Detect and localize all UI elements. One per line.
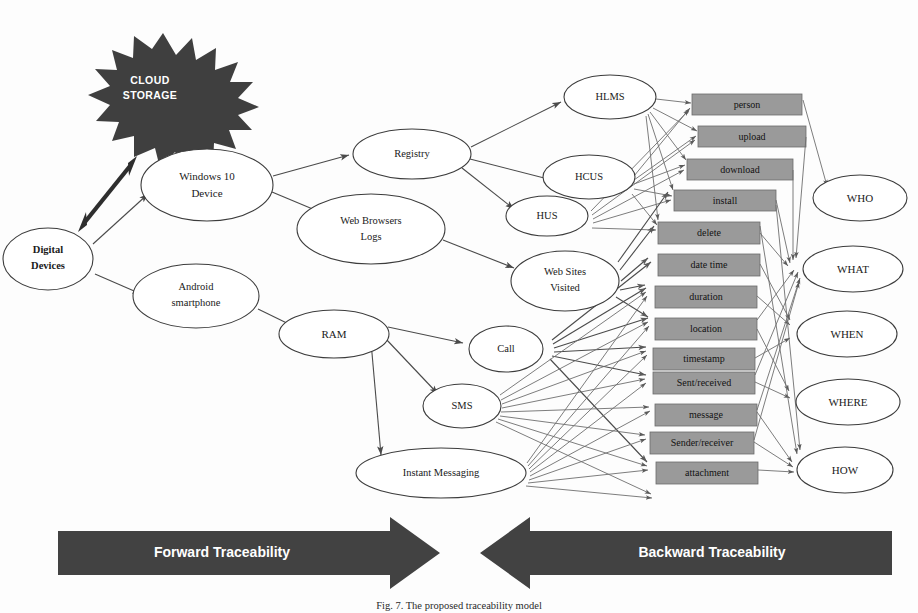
attribute-box-timestamp[interactable]: timestamp [653, 348, 755, 370]
attribute-label: upload [738, 131, 765, 142]
node-label-line1: Android [179, 281, 215, 292]
traceability-diagram: CLOUD STORAGE [0, 0, 918, 613]
node-label: HLMS [595, 91, 624, 102]
attribute-box-sent-received[interactable]: Sent/received [653, 372, 755, 394]
node-label: WHEN [831, 328, 864, 340]
node-label-line1: Windows 10 [179, 170, 235, 182]
attribute-box-download[interactable]: download [687, 159, 793, 180]
node-label-line2: Devices [31, 260, 65, 271]
forward-traceability-label: Forward Traceability [154, 544, 290, 560]
attribute-label: duration [689, 291, 722, 302]
node-label-line2: Logs [361, 231, 382, 242]
node-where[interactable]: WHERE [796, 379, 900, 425]
attribute-box-location[interactable]: location [655, 318, 757, 340]
node-label-line1: Web Browsers [340, 215, 401, 226]
attribute-box-duration[interactable]: duration [655, 286, 757, 308]
attribute-box-date-time[interactable]: date time [658, 254, 760, 276]
node-hlms[interactable]: HLMS [564, 75, 656, 119]
figure-canvas: CLOUD STORAGE [0, 0, 918, 613]
node-label-line2: Device [191, 187, 222, 199]
node-label: WHAT [837, 263, 869, 275]
node-label: HOW [832, 464, 859, 476]
node-web-sites-visited[interactable]: Web Sites Visited [511, 251, 619, 311]
node-hcus[interactable]: HCUS [543, 155, 635, 199]
attribute-box-upload[interactable]: upload [698, 126, 806, 147]
node-label-line1: Digital [33, 244, 63, 255]
node-instant-messaging[interactable]: Instant Messaging [356, 448, 526, 498]
attribute-box-delete[interactable]: delete [658, 222, 760, 244]
node-label: WHERE [828, 396, 867, 408]
attribute-label: location [690, 323, 722, 334]
attribute-label: Sent/received [677, 377, 731, 388]
node-label: SMS [451, 400, 472, 411]
forward-traceability-band: Forward Traceability [58, 517, 440, 589]
node-what[interactable]: WHAT [803, 246, 903, 292]
node-how[interactable]: HOW [797, 447, 893, 493]
node-when[interactable]: WHEN [797, 311, 897, 357]
node-android-smartphone[interactable]: Android smartphone [133, 264, 259, 328]
backward-traceability-band: Backward Traceability [480, 517, 892, 589]
node-hus[interactable]: HUS [506, 196, 588, 236]
attribute-label: person [734, 99, 761, 110]
node-label-line2: Visited [550, 282, 580, 293]
attribute-box-install[interactable]: install [674, 190, 776, 211]
attribute-label: date time [691, 259, 728, 270]
node-call[interactable]: Call [469, 326, 543, 372]
cloud-storage-star-shape [88, 33, 259, 172]
attribute-label: message [689, 409, 723, 420]
cloud-sync-double-arrow [78, 156, 137, 232]
node-ram[interactable]: RAM [279, 310, 389, 358]
node-web-browsers-logs[interactable]: Web Browsers Logs [297, 194, 445, 264]
node-label: HCUS [575, 171, 603, 182]
cloud-storage-label-line2: STORAGE [123, 89, 178, 101]
node-label: Call [497, 343, 515, 354]
node-windows-10-device[interactable]: Windows 10 Device [141, 149, 273, 221]
attribute-label: download [720, 164, 759, 175]
node-digital-devices[interactable]: Digital Devices [3, 228, 93, 290]
attribute-label: install [713, 195, 738, 206]
attribute-label: delete [697, 227, 721, 238]
node-label-line1: Web Sites [544, 266, 586, 277]
node-label: HUS [536, 210, 557, 221]
attribute-label: Sender/receiver [671, 437, 734, 448]
attribute-label: timestamp [683, 353, 725, 364]
node-registry[interactable]: Registry [353, 129, 471, 179]
attribute-label: attachment [685, 467, 729, 478]
node-label: WHO [847, 192, 873, 204]
attribute-box-attachment[interactable]: attachment [656, 462, 758, 484]
node-label: Instant Messaging [403, 467, 480, 478]
node-who[interactable]: WHO [813, 175, 907, 221]
attribute-box-message[interactable]: message [655, 404, 757, 426]
cloud-storage-label-line1: CLOUD [130, 74, 169, 86]
node-sms[interactable]: SMS [423, 384, 501, 428]
node-label: Registry [394, 148, 430, 159]
figure-caption: Fig. 7. The proposed traceability model [376, 600, 542, 611]
attribute-box-sender-receiver[interactable]: Sender/receiver [650, 432, 754, 454]
backward-traceability-label: Backward Traceability [638, 544, 785, 560]
cloud-storage-node: CLOUD STORAGE [88, 33, 259, 172]
node-label: RAM [321, 328, 346, 340]
attribute-box-person[interactable]: person [692, 94, 802, 115]
edge-group-sources [93, 194, 148, 294]
node-label-line2: smartphone [172, 297, 221, 308]
